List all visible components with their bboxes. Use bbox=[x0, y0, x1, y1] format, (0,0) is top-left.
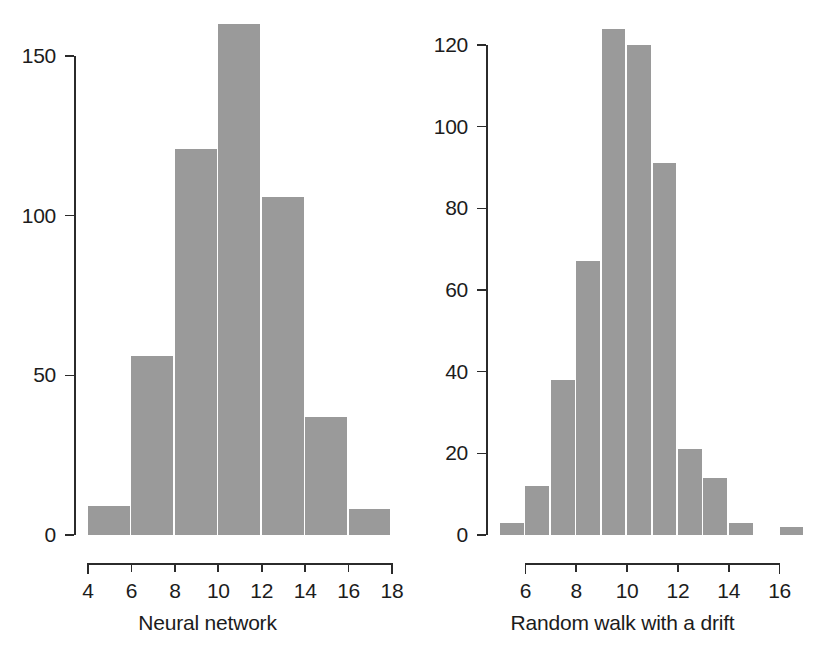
y-axis-label: 60 bbox=[386, 279, 468, 300]
y-axis-label: 40 bbox=[386, 361, 468, 382]
y-axis-label: 50 bbox=[0, 364, 56, 385]
x-axis-label: 8 bbox=[571, 580, 582, 601]
y-axis-tick bbox=[477, 289, 486, 291]
panel-random-walk: 0204060801001206810121416 Random walk wi… bbox=[415, 0, 830, 656]
axes-left: 0501001504681012141618 bbox=[0, 0, 415, 560]
x-axis-label: 14 bbox=[294, 580, 317, 601]
y-axis-tick bbox=[477, 126, 486, 128]
y-axis-tick bbox=[477, 371, 486, 373]
axes-right: 0204060801001206810121416 bbox=[415, 0, 830, 560]
x-axis-title-right: Random walk with a drift bbox=[415, 612, 830, 634]
x-axis-tick bbox=[626, 563, 628, 572]
y-axis-tick bbox=[477, 453, 486, 455]
x-axis-label: 18 bbox=[381, 580, 404, 601]
x-axis-label: 6 bbox=[126, 580, 137, 601]
x-axis-line bbox=[525, 563, 779, 565]
x-axis-tick bbox=[525, 563, 527, 574]
x-axis-label: 16 bbox=[337, 580, 360, 601]
x-axis-label: 12 bbox=[667, 580, 690, 601]
x-axis-label: 6 bbox=[520, 580, 531, 601]
y-axis-tick bbox=[65, 375, 74, 377]
x-axis-tick bbox=[677, 563, 679, 572]
y-axis-label: 20 bbox=[386, 442, 468, 463]
y-axis-tick bbox=[65, 534, 74, 536]
x-axis-tick bbox=[728, 563, 730, 572]
x-axis-label: 12 bbox=[250, 580, 273, 601]
x-axis-label: 4 bbox=[82, 580, 93, 601]
x-axis-label: 16 bbox=[768, 580, 791, 601]
x-axis-tick bbox=[304, 563, 306, 572]
x-axis-label: 8 bbox=[169, 580, 180, 601]
x-axis-line bbox=[88, 563, 392, 565]
y-axis-tick bbox=[65, 55, 74, 57]
y-axis-label: 0 bbox=[386, 524, 468, 545]
y-axis-label: 80 bbox=[386, 197, 468, 218]
x-axis-tick bbox=[348, 563, 350, 572]
x-axis-tick bbox=[391, 563, 393, 574]
x-axis-label: 10 bbox=[616, 580, 639, 601]
x-axis-tick bbox=[779, 563, 781, 574]
y-axis-label: 100 bbox=[386, 116, 468, 137]
y-axis-tick bbox=[65, 215, 74, 217]
y-axis-tick bbox=[477, 534, 486, 536]
x-axis-tick bbox=[261, 563, 263, 572]
figure-histogram-pair: 0501001504681012141618 Neural network 02… bbox=[0, 0, 830, 656]
y-axis-tick bbox=[477, 44, 486, 46]
plot-area-right: 0204060801001206810121416 bbox=[415, 0, 830, 560]
panel-neural-network: 0501001504681012141618 Neural network bbox=[0, 0, 415, 656]
y-axis-label: 120 bbox=[386, 34, 468, 55]
y-axis-label: 0 bbox=[0, 524, 56, 545]
plot-area-left: 0501001504681012141618 bbox=[0, 0, 415, 560]
y-axis-label: 150 bbox=[0, 45, 56, 66]
x-axis-tick bbox=[174, 563, 176, 572]
y-axis-label: 100 bbox=[0, 205, 56, 226]
x-axis-tick bbox=[131, 563, 133, 572]
x-axis-tick bbox=[575, 563, 577, 572]
x-axis-tick bbox=[217, 563, 219, 572]
x-axis-label: 14 bbox=[717, 580, 740, 601]
y-axis-line bbox=[486, 45, 488, 535]
x-axis-tick bbox=[87, 563, 89, 574]
y-axis-line bbox=[74, 56, 76, 535]
x-axis-title-left: Neural network bbox=[0, 612, 415, 634]
x-axis-label: 10 bbox=[207, 580, 230, 601]
y-axis-tick bbox=[477, 208, 486, 210]
